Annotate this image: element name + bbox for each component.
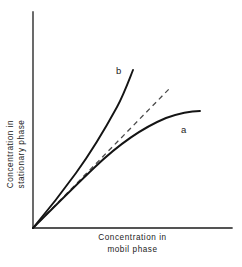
curve-b-path — [33, 70, 133, 228]
isotherm-figure: b a Concentration in mobil phase Concent… — [0, 0, 242, 267]
curve-a-path — [33, 111, 200, 228]
chart-plot-area — [0, 0, 242, 267]
curve-b-label: b — [116, 66, 121, 76]
y-axis-label: Concentration in stationary phase — [5, 84, 27, 224]
curve-a-label: a — [181, 125, 186, 135]
x-axis-label-line-2: mobil phase — [33, 244, 232, 256]
y-axis-label-line-2: stationary phase — [16, 84, 27, 224]
x-axis-label: Concentration in mobil phase — [33, 232, 232, 256]
y-axis-label-line-1: Concentration in — [5, 84, 16, 224]
x-axis-label-line-1: Concentration in — [33, 232, 232, 244]
